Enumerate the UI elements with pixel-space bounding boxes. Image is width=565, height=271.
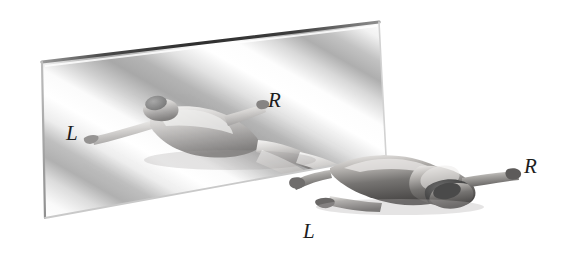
mirror-reflection-figure: L R R L xyxy=(0,0,565,271)
mirror-plane-group xyxy=(42,22,386,218)
scene-illustration xyxy=(0,0,565,271)
label-reflected-left-hand: L xyxy=(66,123,78,144)
label-real-left-hand: L xyxy=(303,221,315,242)
label-real-right-hand: R xyxy=(524,156,537,177)
label-reflected-right-hand: R xyxy=(268,90,281,111)
